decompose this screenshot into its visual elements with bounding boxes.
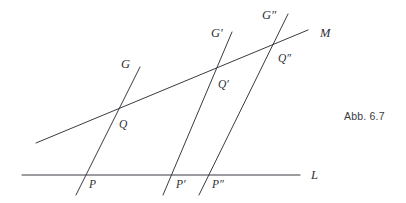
label-line-G: G [121, 57, 130, 71]
figure-container: L M G G′ G″ P P′ P″ Q Q′ Q″ Abb. 6.7 [0, 0, 406, 203]
geometry-diagram: L M G G′ G″ P P′ P″ Q Q′ Q″ [0, 0, 406, 203]
label-point-P-prime: P′ [175, 178, 186, 190]
label-point-P: P [88, 178, 96, 190]
label-point-Q: Q [119, 118, 128, 130]
line-G-prime [163, 32, 232, 195]
figure-caption: Abb. 6.7 [344, 110, 385, 122]
label-line-G-prime: G′ [211, 26, 223, 40]
label-point-Q-double-prime: Q″ [278, 52, 291, 64]
line-G-double-prime [199, 14, 288, 195]
label-line-G-double-prime: G″ [262, 8, 277, 22]
label-point-P-double-prime: P″ [211, 178, 224, 190]
label-point-Q-prime: Q′ [218, 78, 229, 90]
line-G [76, 67, 140, 195]
label-line-L: L [310, 168, 318, 182]
label-line-M: M [319, 26, 331, 40]
line-M [36, 30, 308, 143]
